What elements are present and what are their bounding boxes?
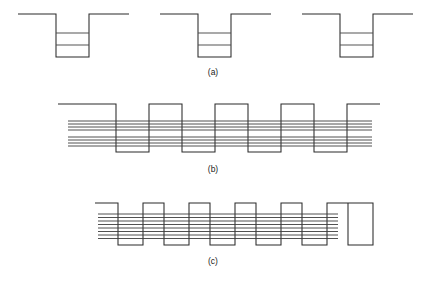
panel-b xyxy=(58,104,380,152)
quantum-well-diagram: (a) (b) (c) xyxy=(0,0,426,281)
panel-c-label: (c) xyxy=(208,256,218,266)
well-potential-well-center xyxy=(160,14,271,57)
figure-container: (a) (b) (c) xyxy=(0,0,426,281)
panel-a xyxy=(18,14,413,57)
well-potential-well-right xyxy=(302,14,413,57)
panel-b-label: (b) xyxy=(208,164,219,174)
well-potential-well-left xyxy=(18,14,129,57)
panel-b-potential-profile xyxy=(58,104,380,152)
panel-a-label: (a) xyxy=(208,67,219,77)
panel-c xyxy=(95,203,373,245)
